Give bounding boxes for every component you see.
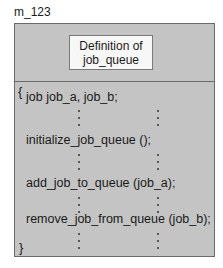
code-line-declare: job job_a, job_b; (26, 90, 118, 104)
definition-box: Definition of job_queue (69, 35, 153, 70)
definition-line-2: job_queue (70, 53, 152, 67)
code-body: { job job_a, job_b; initialize_job_queue… (15, 82, 214, 258)
close-brace: } (19, 240, 23, 255)
ellipsis-dots (78, 233, 81, 254)
code-line-remove: remove_job_from_queue (job_b); (26, 212, 211, 226)
code-line-initialize: initialize_job_queue (); (26, 133, 151, 147)
module-box: Definition of job_queue { job job_a, job… (14, 23, 215, 257)
code-line-add: add_job_to_queue (job_a); (26, 176, 175, 190)
module-header: Definition of job_queue (15, 24, 214, 82)
open-brace: { (18, 84, 22, 99)
ellipsis-dots (157, 233, 160, 254)
ellipsis-dots (157, 110, 160, 131)
module-label: m_123 (14, 5, 51, 19)
ellipsis-dots (157, 154, 160, 175)
definition-line-1: Definition of (70, 39, 152, 53)
ellipsis-dots (78, 154, 81, 175)
ellipsis-dots (78, 110, 81, 131)
